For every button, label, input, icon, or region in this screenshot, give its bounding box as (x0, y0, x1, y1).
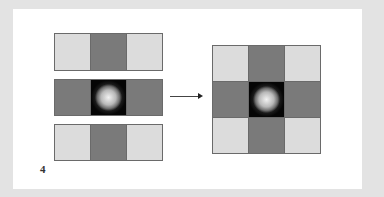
left-r1-c1 (54, 33, 91, 71)
right-r3-c3 (284, 117, 321, 154)
left-r2-c1 (54, 79, 91, 116)
right-r2-c1 (212, 81, 249, 118)
right-r1-c1 (212, 45, 249, 82)
left-r3-c3 (126, 124, 163, 161)
right-r1-c3 (284, 45, 321, 82)
right-r2-c3 (284, 81, 321, 118)
left-r2-c3 (126, 79, 163, 116)
left-r2-c2-sphere (90, 79, 127, 116)
left-r3-c1 (54, 124, 91, 161)
figure-label: 4 (40, 163, 46, 175)
left-r1-c2 (90, 33, 127, 71)
right-r2-c2-sphere (248, 81, 285, 118)
right-r1-c2 (248, 45, 285, 82)
right-r3-c1 (212, 117, 249, 154)
left-r1-c3 (126, 33, 163, 71)
right-arrow-icon (170, 96, 200, 97)
left-r3-c2 (90, 124, 127, 161)
right-r3-c2 (248, 117, 285, 154)
